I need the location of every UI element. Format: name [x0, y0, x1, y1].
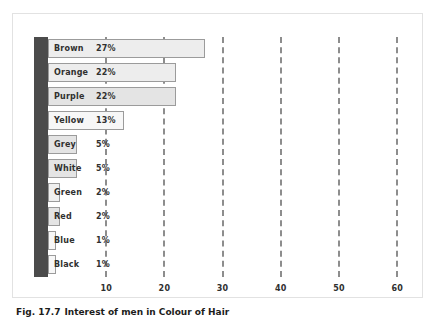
- bar-row[interactable]: Blue1%: [48, 229, 414, 252]
- figure-root: Brown27%Orange22%Purple22%Yellow13%Grey5…: [0, 0, 439, 320]
- caption-number: Fig. 17.7: [16, 307, 60, 317]
- bar-value-green: 2%: [96, 183, 110, 202]
- chart-card: Brown27%Orange22%Purple22%Yellow13%Grey5…: [12, 13, 423, 298]
- bar-value-orange: 22%: [96, 63, 116, 82]
- x-tick-label-30: 30: [208, 284, 238, 293]
- bar-value-yellow: 13%: [96, 111, 116, 130]
- bar-row[interactable]: Black1%: [48, 253, 414, 276]
- bar-value-purple: 22%: [96, 87, 116, 106]
- bar-row[interactable]: Red2%: [48, 205, 414, 228]
- x-tick-label-60: 60: [382, 284, 412, 293]
- bar-label-orange: Orange: [54, 63, 88, 82]
- x-tick-label-50: 50: [324, 284, 354, 293]
- bar-row[interactable]: White5%: [48, 157, 414, 180]
- bar-label-yellow: Yellow: [54, 111, 84, 130]
- bar-row[interactable]: Yellow13%: [48, 109, 414, 132]
- figure-caption: Fig. 17.7Interest of men in Colour of Ha…: [16, 307, 416, 317]
- x-tick-label-10: 10: [91, 284, 121, 293]
- bar-row[interactable]: Green2%: [48, 181, 414, 204]
- bar-row[interactable]: Brown27%: [48, 37, 414, 60]
- bar-row[interactable]: Grey5%: [48, 133, 414, 156]
- bar-series: Brown27%Orange22%Purple22%Yellow13%Grey5…: [34, 37, 414, 277]
- bar-value-blue: 1%: [96, 231, 110, 250]
- bar-value-black: 1%: [96, 255, 110, 274]
- x-axis: 102030405060: [34, 277, 414, 299]
- plot-area: Brown27%Orange22%Purple22%Yellow13%Grey5…: [34, 37, 414, 277]
- bar-value-brown: 27%: [96, 39, 116, 58]
- bar-label-brown: Brown: [54, 39, 84, 58]
- bar-value-white: 5%: [96, 159, 110, 178]
- bar-label-purple: Purple: [54, 87, 85, 106]
- bar-label-grey: Grey: [54, 135, 76, 154]
- bar-label-green: Green: [54, 183, 82, 202]
- bar-label-blue: Blue: [54, 231, 75, 250]
- caption-text: Interest of men in Colour of Hair: [64, 307, 229, 317]
- x-tick-label-20: 20: [149, 284, 179, 293]
- bar-row[interactable]: Purple22%: [48, 85, 414, 108]
- bar-row[interactable]: Orange22%: [48, 61, 414, 84]
- bar-label-white: White: [54, 159, 82, 178]
- bar-label-black: Black: [54, 255, 79, 274]
- bar-value-red: 2%: [96, 207, 110, 226]
- bar-value-grey: 5%: [96, 135, 110, 154]
- bar-label-red: Red: [54, 207, 72, 226]
- x-tick-label-40: 40: [266, 284, 296, 293]
